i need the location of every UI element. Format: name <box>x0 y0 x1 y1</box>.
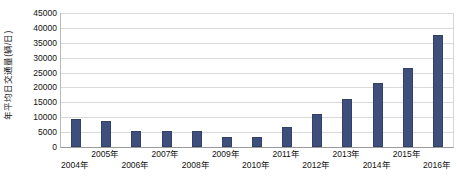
y-axis-tick-label: 40000 <box>15 23 57 32</box>
bar-slot <box>61 13 91 147</box>
x-axis-tick-label: 2010年 <box>236 160 276 170</box>
x-axis-tick-label: 2007年 <box>146 149 186 159</box>
bar-slot <box>91 13 121 147</box>
x-axis-tick-label: 2006年 <box>115 160 155 170</box>
y-axis-tick-label: 45000 <box>15 9 57 18</box>
bar-slot <box>242 13 272 147</box>
x-axis-tick-label: 2015年 <box>387 149 427 159</box>
y-axis-tick-label: 35000 <box>15 38 57 47</box>
bar-slot <box>182 13 212 147</box>
bar[interactable] <box>373 83 383 147</box>
bar[interactable] <box>222 137 232 147</box>
x-axis-tick-label: 2011年 <box>266 149 306 159</box>
bar[interactable] <box>192 131 202 147</box>
y-axis-tick-label: 15000 <box>15 98 57 107</box>
x-axis-tick-label: 2012年 <box>296 160 336 170</box>
bar[interactable] <box>342 99 352 147</box>
bar-chart: 年平均日交通量(辆/日) 050001000015000200002500030… <box>0 0 457 181</box>
bar-slot <box>212 13 242 147</box>
x-axis-tick-label: 2014年 <box>357 160 397 170</box>
bar[interactable] <box>403 68 413 147</box>
y-axis-tick-label: 10000 <box>15 113 57 122</box>
x-axis-tick-label: 2016年 <box>417 160 457 170</box>
bar-slot <box>423 13 453 147</box>
bar-slot <box>302 13 332 147</box>
plot-area <box>60 13 454 148</box>
bar[interactable] <box>101 121 111 147</box>
x-axis-tick-label: 2013年 <box>326 149 366 159</box>
x-axis-tick-label: 2008年 <box>176 160 216 170</box>
y-axis-tick-label: 5000 <box>15 128 57 137</box>
y-axis-tick-label: 25000 <box>15 68 57 77</box>
bar-slot <box>121 13 151 147</box>
y-axis-tick-labels: 0500010000150002000025000300003500040000… <box>16 7 60 148</box>
bar[interactable] <box>433 35 443 147</box>
bar[interactable] <box>312 114 322 147</box>
bar-slot <box>363 13 393 147</box>
x-axis-tick-label: 2004年 <box>55 160 95 170</box>
x-axis-tick-labels: 2004年2005年2006年2007年2008年2009年2010年2011年… <box>60 148 454 180</box>
y-axis-tick-label: 0 <box>15 143 57 152</box>
x-axis-tick-label: 2009年 <box>206 149 246 159</box>
bar[interactable] <box>282 127 292 147</box>
bar[interactable] <box>71 119 81 147</box>
y-axis-tick-label: 30000 <box>15 53 57 62</box>
bar-slot <box>151 13 181 147</box>
y-axis-title-label: 年平均日交通量(辆/日) <box>5 30 14 119</box>
bar[interactable] <box>252 137 262 147</box>
bar[interactable] <box>131 131 141 147</box>
bar[interactable] <box>162 131 172 147</box>
x-axis-tick-label: 2005年 <box>85 149 125 159</box>
bar-slot <box>272 13 302 147</box>
bar-slot <box>332 13 362 147</box>
bar-slot <box>393 13 423 147</box>
y-axis-tick-label: 20000 <box>15 83 57 92</box>
bars-series <box>61 13 453 147</box>
